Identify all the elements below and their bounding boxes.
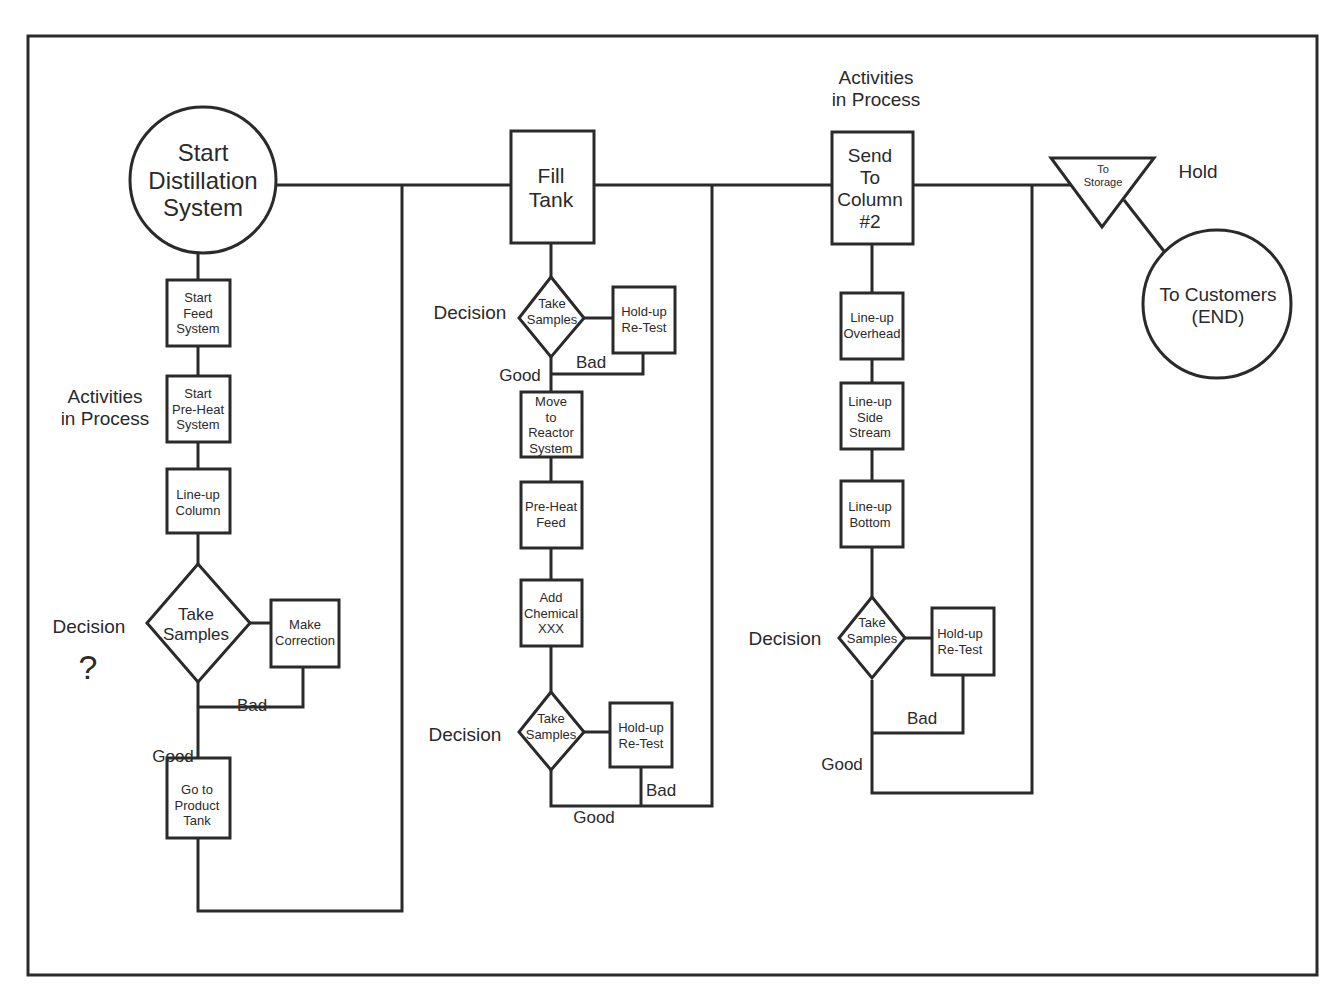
step-move-to-reactor: MovetoReactorSystem xyxy=(528,394,574,456)
good-label: Good xyxy=(499,366,541,386)
decision-label: TakeSamples xyxy=(527,296,578,327)
hold-annotation: Hold xyxy=(1178,161,1217,183)
connector xyxy=(1124,200,1167,255)
decision-annotation-left: Decision xyxy=(53,616,126,638)
step-lineup-bottom: Line-upBottom xyxy=(848,499,891,530)
step-add-chemical: AddChemicalXXX xyxy=(524,590,578,637)
end-node-label: To Customers(END) xyxy=(1159,284,1276,328)
decision-annotation: Decision xyxy=(429,724,502,746)
decision-label: TakeSamples xyxy=(526,711,577,742)
step-lineup-column: Line-upColumn xyxy=(176,487,221,518)
retest-label: Hold-upRe-Test xyxy=(618,720,664,751)
decision-label: TakeSamples xyxy=(847,615,898,646)
bad-label: Bad xyxy=(576,353,606,373)
step-preheat-feed: Pre-HeatFeed xyxy=(525,499,577,530)
good-label: Good xyxy=(573,808,615,828)
decision-label: TakeSamples xyxy=(163,605,229,644)
make-correction-label: MakeCorrection xyxy=(275,617,335,648)
good-label: Good xyxy=(821,755,863,775)
step-start-feed: StartFeedSystem xyxy=(176,290,219,337)
activities-annotation-left: Activitiesin Process xyxy=(61,386,150,430)
activities-annotation-top: Activitiesin Process xyxy=(832,67,921,111)
bad-label: Bad xyxy=(907,709,937,729)
step-go-to-product-tank: Go toProductTank xyxy=(175,782,220,829)
send-to-column-label: SendToColumn#2 xyxy=(837,145,902,232)
step-lineup-sidestream: Line-upSideStream xyxy=(848,394,891,441)
step-lineup-overhead: Line-upOverhead xyxy=(843,310,900,341)
bad-label: Bad xyxy=(646,781,676,801)
retest-label: Hold-upRe-Test xyxy=(621,304,667,335)
decision-annotation: Decision xyxy=(749,628,822,650)
question-mark: ? xyxy=(79,648,98,687)
start-node-label: StartDistillationSystem xyxy=(148,139,257,222)
bad-label: Bad xyxy=(237,696,267,716)
to-storage-label: ToStorage xyxy=(1084,163,1123,188)
fill-tank-label: FillTank xyxy=(529,164,573,212)
step-start-preheat: StartPre-HeatSystem xyxy=(172,386,224,433)
retest-label: Hold-upRe-Test xyxy=(937,626,983,657)
decision-annotation: Decision xyxy=(434,302,507,324)
good-label: Good xyxy=(152,747,194,767)
